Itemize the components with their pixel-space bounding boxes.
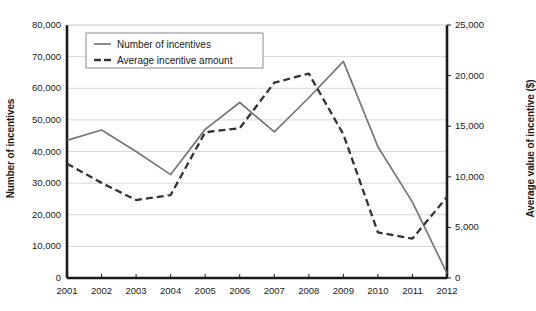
chart-container: Number of incentives Average value of in… bbox=[0, 0, 536, 311]
series-line-0 bbox=[67, 61, 447, 273]
legend-label-1: Average incentive amount bbox=[117, 55, 233, 66]
legend-label-0: Number of incentives bbox=[117, 39, 211, 50]
series-line-1 bbox=[67, 74, 447, 239]
plot-area: Number of incentivesAverage incentive am… bbox=[0, 0, 536, 311]
